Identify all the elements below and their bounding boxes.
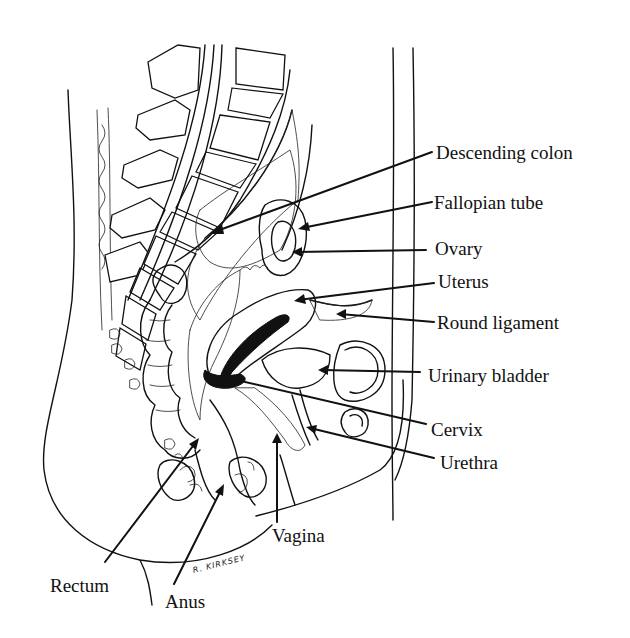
label-round-ligament: Round ligament — [437, 313, 559, 332]
leader-urinary-bladder — [322, 370, 420, 372]
label-vagina: Vagina — [272, 526, 325, 545]
label-ovary: Ovary — [435, 239, 482, 258]
label-rectum: Rectum — [50, 576, 109, 595]
leader-ovary — [296, 250, 426, 252]
uterus — [204, 290, 372, 389]
label-uterus: Uterus — [438, 272, 489, 291]
vertebral-column — [105, 45, 285, 370]
back-muscle — [97, 108, 112, 330]
label-urinary-bladder: Urinary bladder — [428, 366, 549, 385]
leader-round-ligament — [340, 314, 434, 322]
pelvic-tissue — [188, 270, 240, 420]
leader-rectum — [105, 442, 196, 562]
vagina — [158, 388, 318, 505]
label-descending-colon: Descending colon — [436, 143, 573, 162]
label-fallopian-tube: Fallopian tube — [434, 193, 543, 212]
label-cervix: Cervix — [431, 420, 483, 439]
leader-fallopian-tube — [302, 202, 432, 228]
label-urethra: Urethra — [440, 453, 498, 472]
pubic-bone — [341, 409, 368, 437]
leader-cervix — [228, 378, 426, 424]
label-anus: Anus — [165, 592, 205, 611]
leader-urethra — [310, 428, 434, 458]
